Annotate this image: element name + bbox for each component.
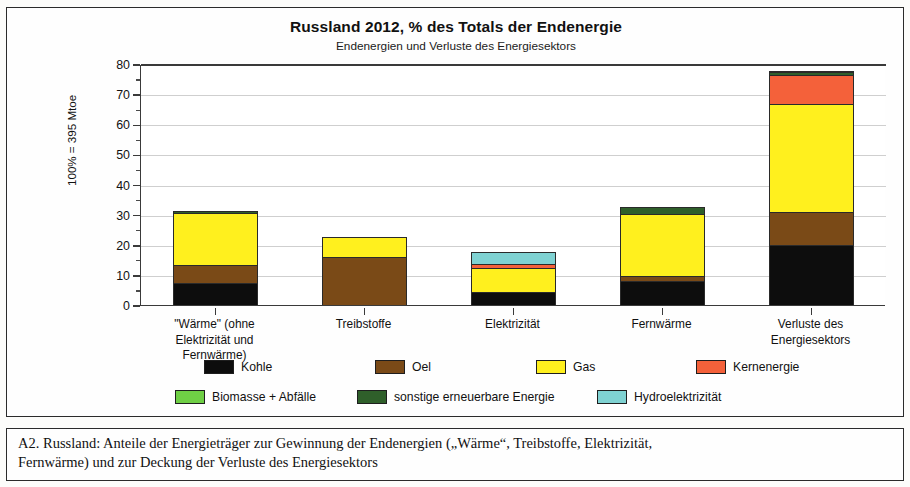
- x-tick: [513, 308, 514, 315]
- bar-stack: [471, 252, 556, 305]
- x-tick: [215, 308, 216, 315]
- legend-swatch: [597, 390, 627, 404]
- bar-segment: [323, 238, 406, 258]
- plot-area: [140, 65, 885, 306]
- bar-segment: [472, 293, 555, 305]
- y-tick-label: 60: [84, 118, 130, 132]
- y-tick-label: 80: [84, 58, 130, 72]
- legend-item: Kernenergie: [696, 360, 799, 374]
- legend-item: Oel: [375, 360, 431, 374]
- figure-caption: A2. Russland: Anteile der Energieträger …: [6, 428, 904, 481]
- bar-segment: [770, 76, 853, 105]
- y-axis-title: 100% = 395 Mtoe: [65, 95, 78, 186]
- figure-page: Russland 2012, % des Totals der Endenerg…: [0, 0, 910, 487]
- legend-label: Hydroelektrizität: [634, 390, 721, 404]
- y-tick-major: [133, 245, 140, 247]
- legend-item: sonstige erneuerbare Energie: [357, 390, 555, 404]
- legend-row-2: Biomasse + Abfällesonstige erneuerbare E…: [7, 390, 905, 412]
- legend-label: Gas: [573, 360, 595, 374]
- bar-segment: [770, 246, 853, 305]
- x-axis-category-label: "Wärme" (ohne Elektrizität und Fernwärme…: [140, 317, 289, 364]
- x-tick: [662, 308, 663, 315]
- bar-segment: [770, 213, 853, 246]
- bar-segment: [472, 253, 555, 265]
- chart-title: Russland 2012, % des Totals der Endenerg…: [7, 18, 905, 36]
- chart-figure-frame: Russland 2012, % des Totals der Endenerg…: [6, 7, 904, 417]
- y-tick-label: 70: [84, 88, 130, 102]
- legend-swatch: [357, 390, 387, 404]
- bar-segment: [174, 266, 257, 284]
- legend-label: Kernenergie: [733, 360, 799, 374]
- y-tick-major: [133, 125, 140, 127]
- x-axis-category-label: Fernwärme: [587, 317, 736, 333]
- x-axis-category-label: Treibstoffe: [289, 317, 438, 333]
- y-tick-label: 50: [84, 148, 130, 162]
- x-axis-category-label: Verluste des Energiesektors: [736, 317, 885, 348]
- caption-line-1: A2. Russland: Anteile der Energieträger …: [18, 434, 894, 453]
- y-tick-major: [133, 64, 140, 66]
- y-tick-label: 10: [84, 269, 130, 283]
- y-tick-label: 20: [84, 239, 130, 253]
- bar-segment: [621, 215, 704, 277]
- y-tick-major: [133, 275, 140, 277]
- legend-label: Oel: [412, 360, 431, 374]
- y-tick-label: 0: [84, 299, 130, 313]
- legend-swatch: [375, 360, 405, 374]
- y-tick-major: [133, 94, 140, 96]
- y-tick-major: [133, 215, 140, 217]
- caption-line-2: Fernwärme) und zur Deckung der Verluste …: [18, 453, 894, 472]
- y-tick-major: [133, 305, 140, 307]
- bar-stack: [173, 211, 258, 305]
- legend-label: sonstige erneuerbare Energie: [394, 390, 555, 404]
- plot-top-axis: [141, 64, 886, 66]
- bar-stack: [322, 237, 407, 305]
- y-tick-label: 40: [84, 179, 130, 193]
- x-axis-category-label: Elektrizität: [438, 317, 587, 333]
- x-tick: [811, 308, 812, 315]
- bar-segment: [174, 214, 257, 266]
- bar-stack: [620, 207, 705, 305]
- bar-segment: [621, 282, 704, 305]
- y-tick-label: 30: [84, 209, 130, 223]
- legend-swatch: [536, 360, 566, 374]
- legend-swatch: [696, 360, 726, 374]
- legend-item: Biomasse + Abfälle: [175, 390, 316, 404]
- chart-subtitle: Endenergien und Verluste des Energiesekt…: [7, 39, 905, 53]
- x-tick: [364, 308, 365, 315]
- bar-segment: [472, 269, 555, 292]
- legend-item: Hydroelektrizität: [597, 390, 721, 404]
- legend-item: Gas: [536, 360, 595, 374]
- y-tick-major: [133, 185, 140, 187]
- bar-segment: [323, 258, 406, 305]
- legend-swatch: [175, 390, 205, 404]
- bar-segment: [174, 284, 257, 305]
- bar-segment: [770, 105, 853, 213]
- bar-segment: [621, 208, 704, 216]
- legend-label: Biomasse + Abfälle: [212, 390, 316, 404]
- bar-stack: [769, 71, 854, 305]
- y-tick-major: [133, 155, 140, 157]
